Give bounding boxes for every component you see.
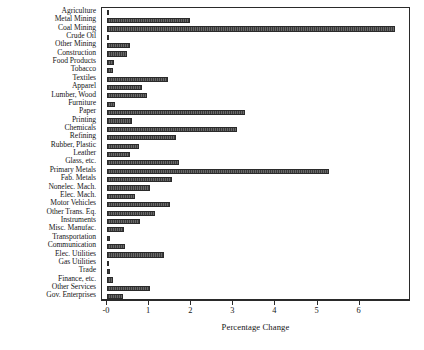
bar <box>107 18 190 23</box>
bar <box>107 294 123 299</box>
bars-container <box>102 8 409 299</box>
bar <box>107 26 395 31</box>
bar <box>107 169 329 174</box>
x-axis-tick-label: 1 <box>133 306 163 316</box>
x-axis-tick <box>190 300 191 305</box>
bar <box>107 177 172 182</box>
bar <box>107 85 142 90</box>
x-axis-tick <box>274 300 275 305</box>
bar <box>107 93 147 98</box>
bar <box>107 211 155 216</box>
bar <box>107 152 130 157</box>
bar <box>107 77 168 82</box>
x-axis-tick <box>232 300 233 305</box>
x-axis-tick-label: -0 <box>91 306 121 316</box>
bar <box>107 236 110 241</box>
bar <box>107 51 127 56</box>
bar <box>107 135 176 140</box>
bar <box>107 277 113 282</box>
bar-chart: AgricultureMetal MiningCoal MiningCrude … <box>0 0 424 350</box>
bar <box>107 252 164 257</box>
bar <box>107 60 114 65</box>
x-axis-tick <box>317 300 318 305</box>
plot-area <box>101 7 410 300</box>
x-axis-tick-label: 4 <box>259 306 289 316</box>
bar <box>107 185 150 190</box>
x-axis-tick-label: 6 <box>344 306 374 316</box>
x-axis-title: Percentage Change <box>101 322 410 332</box>
x-axis-tick-label: 3 <box>217 306 247 316</box>
bar <box>107 286 150 291</box>
bar <box>107 244 125 249</box>
x-axis-tick <box>106 300 107 305</box>
bar <box>107 35 109 40</box>
bar <box>107 202 170 207</box>
bar <box>107 102 115 107</box>
bar <box>107 227 124 232</box>
y-axis-category-labels: AgricultureMetal MiningCoal MiningCrude … <box>0 7 99 300</box>
bar <box>107 219 140 224</box>
bar <box>107 194 135 199</box>
bar <box>107 261 109 266</box>
bar <box>107 118 132 123</box>
bar <box>107 43 130 48</box>
x-axis-tick <box>148 300 149 305</box>
y-axis-label: Gov. Enterprises <box>46 291 96 299</box>
bar <box>107 160 179 165</box>
bar <box>107 110 245 115</box>
x-axis-tick-label: 5 <box>302 306 332 316</box>
bar <box>107 10 109 15</box>
x-axis-tick-label: 2 <box>175 306 205 316</box>
bar <box>107 269 110 274</box>
bar <box>107 127 237 132</box>
bar <box>107 144 139 149</box>
bar <box>107 68 112 73</box>
x-axis-tick <box>359 300 360 305</box>
